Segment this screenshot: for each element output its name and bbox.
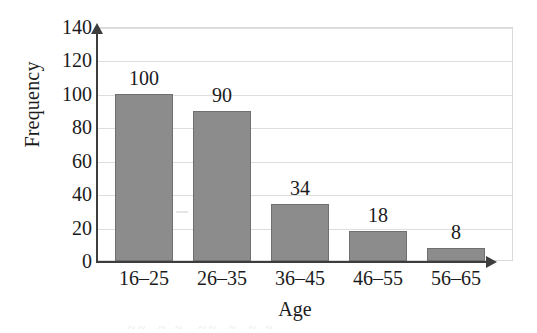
bar-value-label: 18 <box>339 205 417 225</box>
x-tick-label: 16–25 <box>99 266 189 290</box>
bar <box>271 204 329 261</box>
bar-value-label: 100 <box>105 68 183 88</box>
y-axis-tick-labels: 020406080100120140 <box>40 0 92 333</box>
y-tick-label: 60 <box>44 151 92 171</box>
y-tick-label: 140 <box>44 17 92 37</box>
x-axis-tick-labels: 16–2526–3536–4546–5556–65 <box>97 266 513 294</box>
x-tick-label: 46–55 <box>333 266 423 290</box>
bar <box>193 111 251 261</box>
bar-value-label: 34 <box>261 178 339 198</box>
y-tick-label: 0 <box>44 251 92 271</box>
bar-value-label: 90 <box>183 85 261 105</box>
x-tick-label: 56–65 <box>411 266 501 290</box>
x-axis-title: Age <box>95 298 495 321</box>
x-tick-label: 26–35 <box>177 266 267 290</box>
x-axis-line <box>96 261 488 263</box>
x-tick-label: 36–45 <box>255 266 345 290</box>
y-tick-label: 80 <box>44 117 92 137</box>
bar <box>349 231 407 261</box>
y-tick-label: 100 <box>44 84 92 104</box>
bar <box>427 248 485 261</box>
bars-layer: 1009034188 <box>97 27 513 261</box>
scan-ghost-text: ~ ~ ~ ~ ~ ~ ~ ~ ~ <box>128 320 273 333</box>
bar <box>115 94 173 261</box>
y-tick-label: 40 <box>44 184 92 204</box>
y-tick-label: 120 <box>44 50 92 70</box>
bar-chart: Frequency 020406080100120140 1009034188 … <box>0 0 537 333</box>
bar-value-label: 8 <box>417 222 495 242</box>
y-tick-label: 20 <box>44 218 92 238</box>
